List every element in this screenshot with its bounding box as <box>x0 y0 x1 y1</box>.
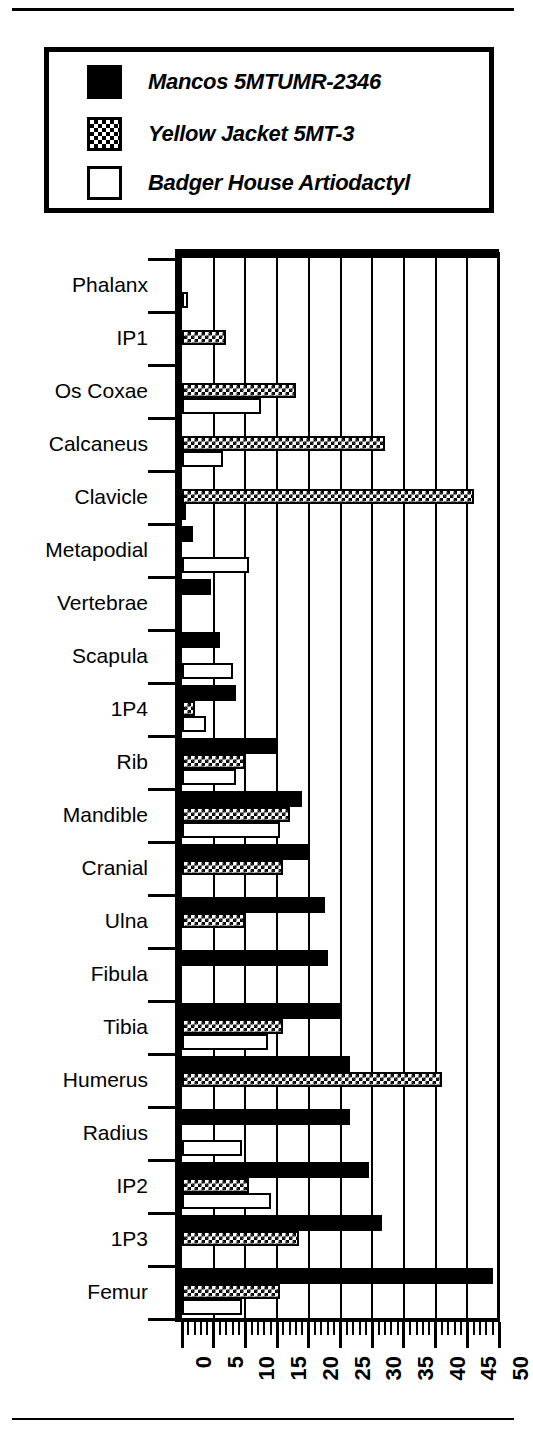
gridline <box>403 258 405 1318</box>
x-axis-tick-label: 15 <box>286 1356 312 1380</box>
bar <box>182 807 290 823</box>
bar <box>182 451 223 467</box>
checkered-square-icon <box>87 117 122 151</box>
gridline <box>276 258 278 1318</box>
bar <box>182 1019 283 1035</box>
bar <box>182 292 188 308</box>
y-axis-label-fibula: Fibula <box>0 962 148 986</box>
y-axis-tick <box>148 364 176 367</box>
y-axis-label-ip1: IP1 <box>0 326 148 350</box>
x-axis-minor-tick <box>232 1322 234 1335</box>
x-axis-minor-tick <box>479 1322 481 1335</box>
bar <box>182 489 474 505</box>
x-axis-minor-tick <box>365 1322 367 1335</box>
gridline <box>244 258 246 1318</box>
legend-label-mancos: Mancos 5MTUMR-2346 <box>148 69 381 95</box>
bar <box>182 398 261 414</box>
y-axis-label-ulna: Ulna <box>0 909 148 933</box>
x-axis-minor-tick <box>333 1322 335 1335</box>
bar <box>182 632 220 648</box>
bar <box>182 769 236 785</box>
bar <box>182 738 277 754</box>
bar <box>182 1162 369 1178</box>
x-axis-major-tick <box>276 1322 279 1348</box>
plot-area <box>182 258 499 1318</box>
y-axis-tick <box>148 682 176 685</box>
legend-entry-yellow-jacket: Yellow Jacket 5MT-3 <box>49 108 489 160</box>
x-axis-minor-tick <box>390 1322 392 1335</box>
x-axis-minor-tick <box>238 1322 240 1335</box>
bar <box>182 685 236 701</box>
y-axis-tick <box>148 470 176 473</box>
x-axis-minor-tick <box>378 1322 380 1335</box>
solid-black-square-icon <box>87 65 122 99</box>
x-axis-minor-tick <box>282 1322 284 1335</box>
bar <box>182 716 206 732</box>
bar <box>182 950 328 966</box>
y-axis-label-calcaneus: Calcaneus <box>0 432 148 456</box>
bar <box>182 1284 280 1300</box>
y-axis-label-humerus: Humerus <box>0 1068 148 1092</box>
bar <box>182 701 195 717</box>
x-axis-tick-label: 25 <box>350 1356 376 1380</box>
bar <box>182 383 296 399</box>
x-axis: 05101520253035404550 <box>182 1322 502 1422</box>
bar <box>182 579 211 595</box>
bar <box>182 1268 493 1284</box>
gridline <box>466 258 468 1318</box>
y-axis-tick <box>148 1000 176 1003</box>
y-axis-tick <box>148 311 176 314</box>
x-axis-minor-tick <box>314 1322 316 1335</box>
bar <box>182 1056 350 1072</box>
y-axis-tick <box>148 1053 176 1056</box>
x-axis-minor-tick <box>492 1322 494 1335</box>
x-axis-major-tick <box>402 1322 405 1348</box>
y-axis-tick <box>148 841 176 844</box>
legend-entry-mancos: Mancos 5MTUMR-2346 <box>49 56 489 108</box>
bar <box>182 330 226 346</box>
bar <box>182 1003 341 1019</box>
bottom-divider-rule <box>12 1418 514 1420</box>
bar <box>182 1072 442 1088</box>
x-axis-minor-tick <box>460 1322 462 1335</box>
y-axis-line <box>175 252 182 1318</box>
top-divider-rule <box>12 8 514 11</box>
x-axis-major-tick <box>339 1322 342 1348</box>
x-axis-major-tick <box>466 1322 469 1348</box>
bar <box>182 913 245 929</box>
bar <box>182 1231 299 1247</box>
x-axis-major-tick <box>434 1322 437 1348</box>
y-axis-tick <box>148 1265 176 1268</box>
y-axis-tick <box>148 735 176 738</box>
y-axis-tick <box>148 1318 176 1321</box>
x-axis-minor-tick <box>359 1322 361 1335</box>
legend-label-badger-house: Badger House Artiodactyl <box>148 170 410 196</box>
chart-legend: Mancos 5MTUMR-2346 Yellow Jacket 5MT-3 B… <box>44 47 494 213</box>
x-axis-major-tick <box>181 1322 184 1348</box>
x-axis-minor-tick <box>219 1322 221 1335</box>
x-axis-minor-tick <box>346 1322 348 1335</box>
x-axis-tick-label: 40 <box>445 1356 471 1380</box>
legend-label-yellow-jacket: Yellow Jacket 5MT-3 <box>148 121 354 147</box>
x-axis-tick-label: 35 <box>413 1356 439 1380</box>
gridline <box>498 258 500 1318</box>
x-axis-minor-tick <box>295 1322 297 1335</box>
y-axis-tick <box>148 1106 176 1109</box>
bar <box>182 504 186 520</box>
x-axis-major-tick <box>371 1322 374 1348</box>
y-axis-tick <box>148 788 176 791</box>
x-axis-tick-label: 0 <box>191 1356 217 1368</box>
y-axis-label-rib: Rib <box>0 750 148 774</box>
y-axis-label-mandible: Mandible <box>0 803 148 827</box>
x-axis-minor-tick <box>187 1322 189 1335</box>
y-axis-label-metapodial: Metapodial <box>0 538 148 562</box>
x-axis-tick-label: 30 <box>381 1356 407 1380</box>
y-axis-label-clavicle: Clavicle <box>0 485 148 509</box>
y-axis-tick <box>148 947 176 950</box>
y-axis-label-radius: Radius <box>0 1121 148 1145</box>
x-axis-tick-label: 10 <box>254 1356 280 1380</box>
gridline <box>213 258 215 1318</box>
y-axis-label-femur: Femur <box>0 1280 148 1304</box>
y-axis-tick <box>148 258 176 261</box>
y-axis-label-cranial: Cranial <box>0 856 148 880</box>
